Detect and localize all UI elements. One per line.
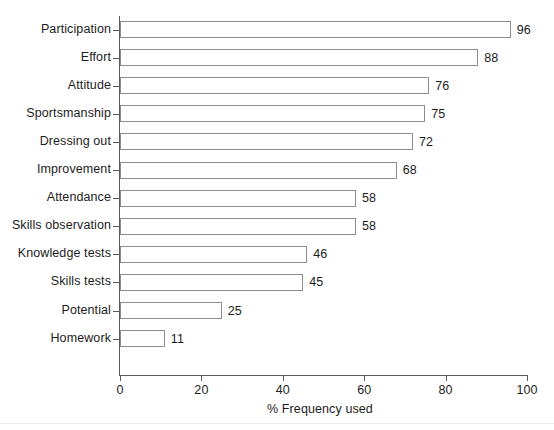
y-axis-category-label: Potential: [61, 303, 111, 317]
x-axis-tick-label: 100: [516, 383, 537, 397]
bar: [120, 190, 356, 207]
y-axis-category-label: Sportsmanship: [26, 106, 111, 120]
bar-value-label: 58: [362, 219, 376, 233]
x-axis-tick-label: 80: [439, 383, 453, 397]
y-axis-category-label: Skills observation: [12, 218, 111, 232]
x-axis-tick: [201, 376, 202, 381]
bar-row: 68: [120, 162, 527, 179]
bar-value-label: 45: [309, 275, 323, 289]
bar-value-label: 75: [431, 107, 445, 121]
bar: [120, 302, 222, 319]
bar: [120, 274, 303, 291]
bar-value-label: 25: [228, 304, 242, 318]
y-axis-category-label: Attendance: [47, 190, 111, 204]
bar-row: 75: [120, 105, 527, 122]
bar-value-label: 76: [435, 79, 449, 93]
bar: [120, 162, 397, 179]
bar-value-label: 58: [362, 191, 376, 205]
y-axis-category-label: Attitude: [68, 78, 111, 92]
y-axis-category-label: Dressing out: [40, 134, 111, 148]
bar: [120, 77, 429, 94]
bar-row: 58: [120, 218, 527, 235]
bar-value-label: 72: [419, 135, 433, 149]
y-axis-category-label: Participation: [41, 22, 111, 36]
bottom-divider: [0, 423, 554, 424]
x-axis-tick: [527, 376, 528, 381]
bar-chart: ParticipationEffortAttitudeSportsmanship…: [0, 0, 554, 430]
x-axis-tick: [364, 376, 365, 381]
y-axis-category-label: Improvement: [37, 162, 111, 176]
plot-area: 968876757268585846452511: [120, 16, 527, 375]
bar-row: 25: [120, 302, 527, 319]
bar: [120, 246, 307, 263]
bar-value-label: 96: [517, 23, 531, 37]
x-axis-tick: [120, 376, 121, 381]
bar: [120, 218, 356, 235]
x-axis-tick-label: 60: [357, 383, 371, 397]
bar: [120, 330, 165, 347]
y-axis-category-label: Skills tests: [51, 274, 111, 288]
y-axis-category-label: Knowledge tests: [18, 246, 111, 260]
bar-row: 76: [120, 77, 527, 94]
x-axis-title-text: % Frequency used: [181, 402, 373, 416]
bar-row: 72: [120, 133, 527, 150]
x-axis-line: [119, 375, 528, 376]
bar-row: 46: [120, 246, 527, 263]
bar-row: 96: [120, 21, 527, 38]
x-axis-tick: [283, 376, 284, 381]
y-axis-category-label: Homework: [50, 331, 111, 345]
bar: [120, 133, 413, 150]
bar: [120, 21, 511, 38]
y-axis-labels: ParticipationEffortAttitudeSportsmanship…: [0, 0, 111, 430]
bar-row: 58: [120, 190, 527, 207]
bar-value-label: 88: [484, 51, 498, 65]
y-axis-category-label: Effort: [81, 50, 111, 64]
x-axis-tick-label: 0: [116, 383, 123, 397]
x-axis-title: % Frequency used: [0, 402, 554, 416]
bar-row: 88: [120, 49, 527, 66]
bar: [120, 105, 425, 122]
bar: [120, 49, 478, 66]
bar-row: 45: [120, 274, 527, 291]
x-axis-tick-label: 20: [194, 383, 208, 397]
x-axis-tick-label: 40: [276, 383, 290, 397]
x-axis-tick: [446, 376, 447, 381]
bar-value-label: 68: [403, 163, 417, 177]
bar-row: 11: [120, 330, 527, 347]
bar-value-label: 46: [313, 247, 327, 261]
bar-value-label: 11: [171, 332, 184, 346]
